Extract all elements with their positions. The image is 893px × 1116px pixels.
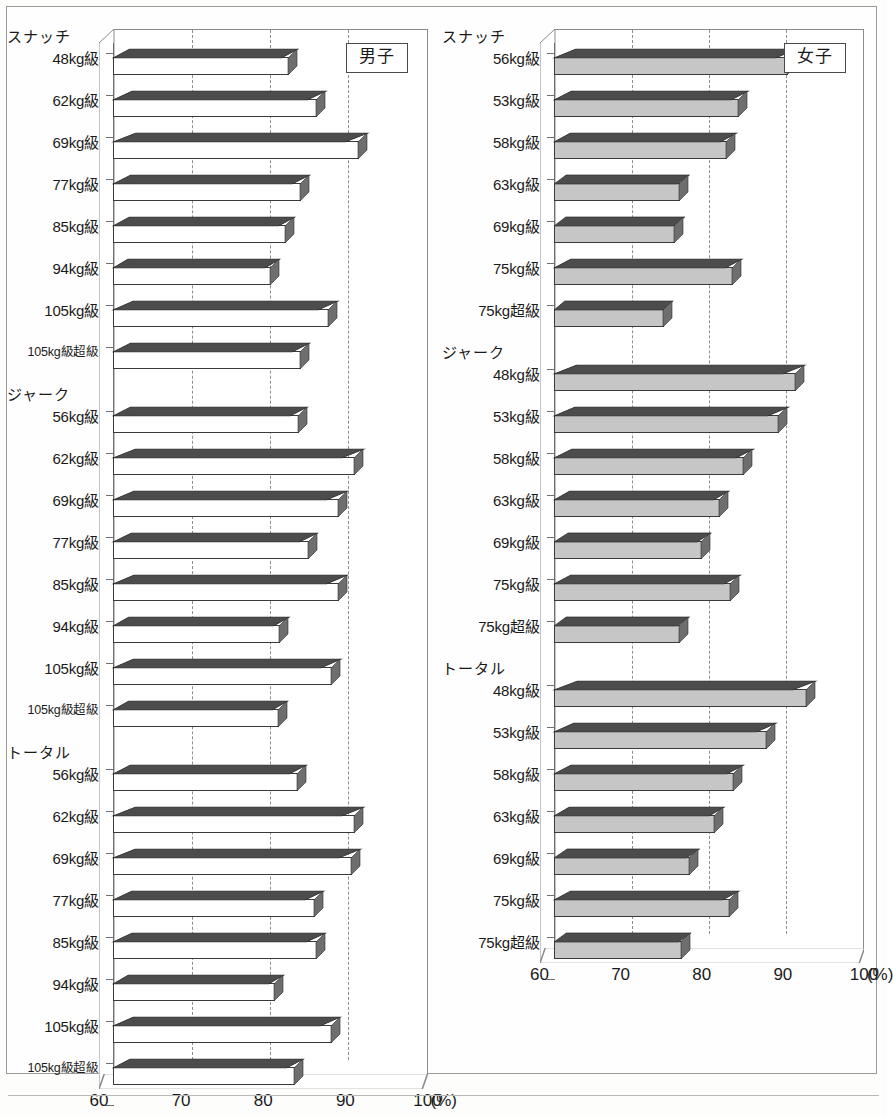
bar-top-face <box>554 133 737 142</box>
bar-layer <box>113 43 428 1074</box>
category-label: 69kg級 <box>448 850 540 867</box>
bar-top-face <box>554 617 690 626</box>
bar <box>554 765 744 791</box>
category-label: 105kg級超級 <box>13 1060 99 1077</box>
category-label: 48kg級 <box>448 682 540 699</box>
bar-top-face <box>554 491 729 500</box>
bar-front-face <box>554 899 730 917</box>
category-label: 94kg級 <box>13 618 99 635</box>
bar-front-face <box>113 583 339 601</box>
category-label: 62kg級 <box>13 808 99 825</box>
bar-front-face <box>554 99 740 117</box>
plot-left-flank <box>99 29 114 1089</box>
bar-front-face <box>554 141 728 159</box>
category-tick <box>547 769 555 770</box>
x-axis-unit-label: (%) <box>867 965 893 985</box>
bar-side-face <box>719 491 729 517</box>
bar-front-face <box>113 667 332 685</box>
bar-side-face <box>689 849 699 875</box>
bar <box>113 701 288 727</box>
bar-front-face <box>113 899 315 917</box>
bar-front-face <box>554 457 745 475</box>
bar-side-face <box>743 449 753 475</box>
bar <box>113 343 310 369</box>
category-label: 56kg級 <box>13 766 99 783</box>
category-label-column: スナッチ48kg級62kg級69kg級77kg級85kg級94kg級105kg級… <box>7 29 99 1017</box>
category-tick <box>106 1063 114 1064</box>
category-label: 63kg級 <box>448 808 540 825</box>
category-label: 77kg級 <box>13 534 99 551</box>
bar <box>554 407 789 433</box>
bar-front-face <box>554 857 691 875</box>
category-label: 58kg級 <box>448 134 540 151</box>
bar <box>113 575 348 601</box>
bar-front-face <box>554 267 733 285</box>
bar <box>554 175 690 201</box>
bar <box>113 933 326 959</box>
category-tick <box>106 663 114 664</box>
bar <box>113 301 338 327</box>
bar-front-face <box>113 225 286 243</box>
category-label: 69kg級 <box>448 218 540 235</box>
bar <box>554 891 739 917</box>
bar <box>554 259 742 285</box>
category-label: 105kg級 <box>13 660 99 677</box>
category-label: 53kg級 <box>448 408 540 425</box>
bar-side-face <box>730 575 740 601</box>
category-tick <box>106 137 114 138</box>
panel-container: スナッチ48kg級62kg級69kg級77kg級85kg級94kg級105kg級… <box>7 7 876 1073</box>
bar <box>113 259 280 285</box>
bar-side-face <box>679 617 689 643</box>
bar-front-face <box>113 815 355 833</box>
bar <box>554 807 724 833</box>
bar <box>113 849 361 875</box>
bar-top-face <box>113 217 295 226</box>
bar <box>554 365 805 391</box>
bar <box>113 1017 341 1043</box>
category-label: 85kg級 <box>13 934 99 951</box>
bar-side-face <box>279 617 289 643</box>
category-tick <box>106 179 114 180</box>
bar-side-face <box>351 849 361 875</box>
bar-side-face <box>270 259 280 285</box>
x-tick-label-60: 60 <box>530 965 549 985</box>
category-label: 58kg級 <box>448 450 540 467</box>
bar-front-face <box>113 351 301 369</box>
category-tick <box>547 95 555 96</box>
bar-side-face <box>314 891 324 917</box>
bar-top-face <box>554 765 744 774</box>
bar-front-face <box>554 373 796 391</box>
bar-side-face <box>726 133 736 159</box>
bar-front-face <box>113 625 280 643</box>
bar-front-face <box>554 499 720 517</box>
bar-top-face <box>113 259 280 268</box>
bar-side-face <box>674 217 684 243</box>
category-tick <box>106 495 114 496</box>
category-label: 69kg級 <box>448 534 540 551</box>
x-tick-label-70: 70 <box>611 965 630 985</box>
bar-front-face <box>113 709 279 727</box>
bar-top-face <box>113 659 341 668</box>
bar-side-face <box>331 659 341 685</box>
bar-top-face <box>554 259 742 268</box>
bar <box>113 975 284 1001</box>
category-label: 63kg級 <box>448 492 540 509</box>
bar <box>554 449 754 475</box>
category-label: 48kg級 <box>448 366 540 383</box>
bar <box>113 217 295 243</box>
category-tick <box>106 453 114 454</box>
bar-side-face <box>288 49 298 75</box>
bar-front-face <box>113 183 301 201</box>
bar-top-face <box>113 91 326 100</box>
bar <box>554 933 691 959</box>
category-tick <box>106 811 114 812</box>
bar <box>554 617 690 643</box>
category-label: 94kg級 <box>13 260 99 277</box>
category-label: 69kg級 <box>13 134 99 151</box>
bar-side-face <box>278 701 288 727</box>
category-tick <box>106 579 114 580</box>
category-label: 75kg超級 <box>448 618 540 635</box>
bar-side-face <box>274 975 284 1001</box>
bar-front-face <box>554 815 715 833</box>
